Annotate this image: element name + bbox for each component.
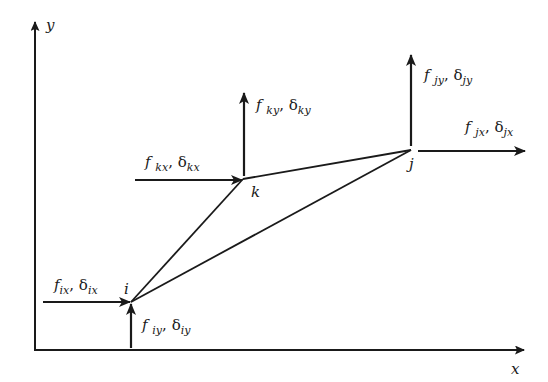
node-label-i: i <box>124 282 129 297</box>
displacement-subscript: iy <box>181 324 191 337</box>
displacement-symbol: δ <box>79 276 88 294</box>
displacement-symbol: δ <box>454 66 463 84</box>
node-label-k: k <box>251 185 260 200</box>
force-symbol: f <box>256 96 262 114</box>
force-symbol: f <box>424 66 430 84</box>
force-label-ix: fix, δix <box>54 278 98 293</box>
force-label-jy: f jy, δjy <box>424 68 472 83</box>
force-label-ky: f ky, δky <box>256 98 311 113</box>
displacement-subscript: jx <box>504 126 514 139</box>
diagram-svg <box>0 0 548 382</box>
force-symbol: f <box>145 153 151 171</box>
diagram-canvas: y x i k j fix, δix f iy, δiy f kx, δkx f… <box>0 0 548 382</box>
displacement-symbol: δ <box>172 316 181 334</box>
force-symbol: f <box>465 118 471 136</box>
x-axis-label: x <box>511 362 519 377</box>
force-subscript: jx <box>475 126 485 139</box>
edge-ik <box>131 179 243 302</box>
displacement-subscript: jy <box>463 74 473 87</box>
separator: , <box>444 66 449 84</box>
displacement-subscript: ky <box>298 104 311 117</box>
force-symbol: f <box>142 316 148 334</box>
force-label-kx: f kx, δkx <box>145 155 200 170</box>
separator: , <box>69 276 74 294</box>
edge-ij <box>131 150 411 302</box>
node-label-j: j <box>409 157 414 172</box>
separator: , <box>162 316 167 334</box>
displacement-symbol: δ <box>289 96 298 114</box>
y-axis-label: y <box>46 18 54 33</box>
triangle-element <box>131 150 411 302</box>
force-subscript: iy <box>152 324 162 337</box>
force-subscript: kx <box>155 161 168 174</box>
force-subscript: ix <box>60 284 70 297</box>
force-label-jx: f jx, δjx <box>465 120 513 135</box>
displacement-symbol: δ <box>495 118 504 136</box>
separator: , <box>168 153 173 171</box>
displacement-subscript: kx <box>187 161 200 174</box>
separator: , <box>279 96 284 114</box>
displacement-subscript: ix <box>88 284 98 297</box>
force-label-iy: f iy, δiy <box>142 318 190 333</box>
displacement-symbol: δ <box>178 153 187 171</box>
force-subscript: jy <box>434 74 444 87</box>
force-symbol: f <box>54 276 60 294</box>
separator: , <box>485 118 490 136</box>
force-subscript: ky <box>266 104 279 117</box>
